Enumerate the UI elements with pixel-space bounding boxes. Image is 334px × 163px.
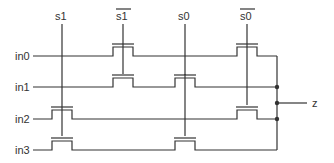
input-label-in2: in2 [15, 113, 30, 125]
wire-in0 [33, 47, 277, 56]
wire-in1 [33, 78, 277, 87]
input-label-in0: in0 [15, 50, 30, 62]
wire-in2 [33, 110, 277, 119]
mux-diagram: s1 s1 s0 s0 in0 in1 in2 in3 z [0, 0, 334, 163]
select-label-s0bar: s0 [240, 10, 252, 22]
input-label-in1: in1 [15, 81, 30, 93]
select-label-s1bar: s1 [116, 10, 128, 22]
select-label-s0: s0 [178, 10, 190, 22]
input-label-in3: in3 [15, 144, 30, 156]
junction-in1 [275, 85, 279, 89]
wire-in3 [33, 141, 277, 150]
junction-in2 [275, 117, 279, 121]
select-label-s1: s1 [55, 10, 67, 22]
output-label-z: z [312, 97, 318, 109]
